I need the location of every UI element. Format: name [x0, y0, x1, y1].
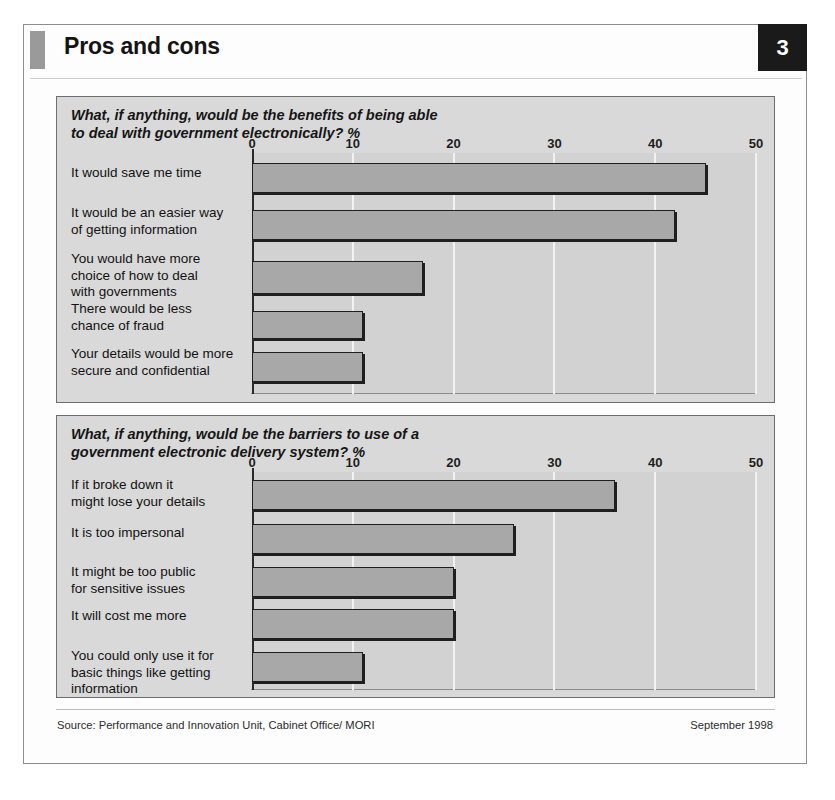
- bar: [252, 567, 454, 597]
- footer-divider: [56, 709, 775, 710]
- page-number-badge: 3: [758, 24, 807, 71]
- category-label: It would save me time: [71, 165, 247, 182]
- chart-panel-barriers: What, if anything, would be the barriers…: [56, 415, 775, 698]
- bar: [252, 261, 423, 294]
- source-note: Source: Performance and Innovation Unit,…: [57, 719, 375, 731]
- category-label: Your details would be more secure and co…: [71, 346, 247, 379]
- page-title: Pros and cons: [64, 33, 220, 60]
- bar-row: [252, 261, 756, 294]
- axis-baseline: [251, 689, 756, 690]
- plot-area-barriers: [252, 472, 756, 690]
- x-tick-label: 50: [749, 455, 763, 470]
- bar-row: [252, 480, 756, 510]
- x-tick-label: 50: [749, 136, 763, 151]
- x-tick-label: 20: [446, 455, 460, 470]
- x-tick-label: 10: [346, 136, 360, 151]
- bar-row: [252, 609, 756, 639]
- category-label: There would be less chance of fraud: [71, 301, 247, 334]
- x-tick-label: 30: [547, 136, 561, 151]
- category-label: You could only use it for basic things l…: [71, 648, 247, 698]
- x-axis-ticks-benefits: 01020304050: [252, 136, 756, 152]
- bar: [252, 609, 454, 639]
- chart-panel-benefits: What, if anything, would be the benefits…: [56, 96, 775, 403]
- category-label: It is too impersonal: [71, 525, 247, 542]
- x-tick-label: 40: [648, 136, 662, 151]
- page-header: Pros and cons 3: [24, 25, 806, 79]
- publication-date: September 1998: [690, 719, 773, 731]
- x-tick-label: 20: [446, 136, 460, 151]
- bar-row: [252, 210, 756, 240]
- category-label: If it broke down it might lose your deta…: [71, 477, 247, 510]
- axis-baseline: [251, 393, 756, 394]
- category-label: It would be an easier way of getting inf…: [71, 205, 247, 238]
- category-label: It might be too public for sensitive iss…: [71, 564, 247, 597]
- bar: [252, 524, 514, 554]
- bar: [252, 480, 615, 510]
- bar-row: [252, 652, 756, 682]
- bar-row: [252, 352, 756, 382]
- x-tick-label: 10: [346, 455, 360, 470]
- bar-row: [252, 524, 756, 554]
- bar-row: [252, 163, 756, 193]
- title-accent-bar: [30, 31, 45, 69]
- header-divider: [30, 78, 802, 79]
- x-axis-ticks-barriers: 01020304050: [252, 455, 756, 471]
- bar: [252, 210, 675, 240]
- bar-row: [252, 311, 756, 339]
- bar: [252, 652, 363, 682]
- category-label: You would have more choice of how to dea…: [71, 251, 247, 301]
- category-label: It will cost me more: [71, 608, 247, 625]
- bar: [252, 352, 363, 382]
- x-tick-label: 40: [648, 455, 662, 470]
- bar-row: [252, 567, 756, 597]
- x-tick-label: 30: [547, 455, 561, 470]
- report-page: Pros and cons 3 What, if anything, would…: [23, 24, 807, 764]
- bar: [252, 311, 363, 339]
- plot-area-benefits: [252, 153, 756, 394]
- bar: [252, 163, 706, 193]
